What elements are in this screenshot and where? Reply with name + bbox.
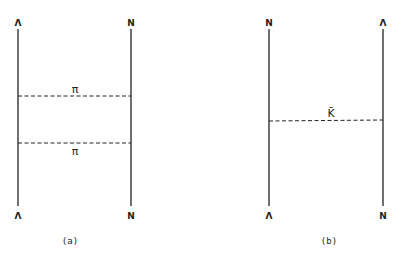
diagram-a-right-top-label: N (127, 18, 135, 28)
diagram-a-exchange-2-label: π (72, 145, 79, 158)
diagram-a-exchange-1-label: π (72, 83, 79, 96)
diagram-a-left-top-label: Λ (15, 18, 22, 28)
diagram-a-right-bottom-label: N (127, 211, 135, 221)
diagram-b-exchange-label: K̄ (327, 107, 335, 120)
diagram-b-left-bottom-label: Λ (266, 211, 273, 221)
diagram-a-left-bottom-label: Λ (15, 211, 22, 221)
diagram-a-caption: (a) (62, 236, 78, 246)
diagram-b-right-bottom-label: N (379, 211, 387, 221)
diagram-a: Λ N π π Λ N (a) (15, 18, 135, 246)
diagram-b-kaon-exchange (269, 120, 383, 121)
feynman-diagrams: Λ N π π Λ N (a) N Λ K̄ Λ N (b) (0, 0, 399, 256)
diagram-b-right-top-label: Λ (380, 18, 387, 28)
diagram-b-left-top-label: N (265, 18, 273, 28)
diagram-b-caption: (b) (321, 236, 337, 246)
diagram-b: N Λ K̄ Λ N (b) (265, 18, 387, 246)
